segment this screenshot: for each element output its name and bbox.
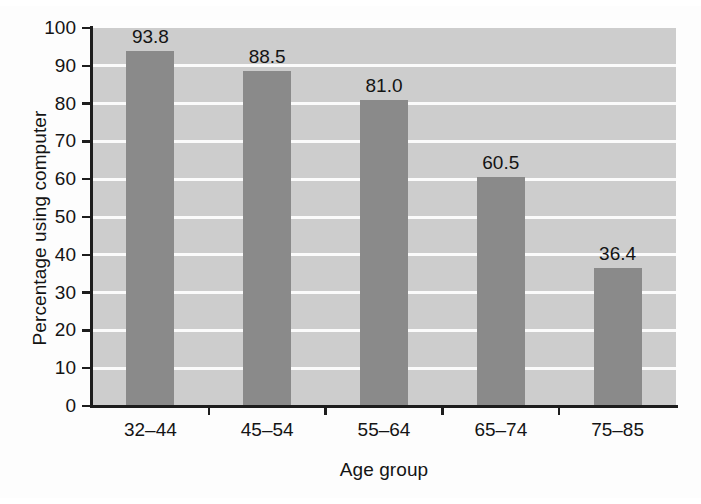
x-axis-category-label: 55–64: [324, 419, 444, 441]
y-axis-tick-label-text: 90: [24, 56, 76, 75]
y-axis-tick-label-text: 50: [24, 207, 76, 226]
y-axis-tick-label-text: 80: [24, 94, 76, 113]
bar-value-label: 81.0: [324, 75, 444, 97]
paper-margin-top: [0, 0, 701, 6]
y-axis-tick: [82, 367, 92, 370]
bar: [594, 268, 642, 406]
y-axis-tick: [82, 65, 92, 68]
x-axis-line: [90, 405, 678, 408]
y-axis-tick-label: 100: [14, 18, 76, 37]
y-axis-tick: [82, 216, 92, 219]
x-axis-tick: [208, 405, 211, 415]
bar: [360, 100, 408, 406]
y-axis-tick-label-text: 60: [24, 169, 76, 188]
y-axis-tick-label: 30: [14, 283, 76, 302]
figure-canvas: Percentage using computer Age group 1009…: [0, 0, 701, 504]
gridline: [92, 64, 676, 67]
y-axis-tick-label: 90: [14, 56, 76, 75]
y-axis-tick-label: 20: [14, 320, 76, 339]
bar-value-label: 36.4: [558, 243, 678, 265]
y-axis-tick-label: 60: [14, 169, 76, 188]
bar: [243, 71, 291, 406]
bar: [477, 177, 525, 406]
y-axis-tick: [82, 102, 92, 105]
y-axis-tick-label-text: 10: [24, 358, 76, 377]
x-axis-tick: [324, 405, 327, 415]
y-axis-tick-label: 10: [14, 358, 76, 377]
paper-margin-bottom: [0, 498, 701, 504]
y-axis-tick: [82, 291, 92, 294]
y-axis-tick-label-text: 30: [24, 283, 76, 302]
x-axis-category-label: 75–85: [558, 419, 678, 441]
y-axis-tick-label-text: 70: [24, 131, 76, 150]
y-axis-tick: [82, 178, 92, 181]
y-axis-tick-label: 70: [14, 131, 76, 150]
x-axis-tick: [441, 405, 444, 415]
y-axis-tick-label: 50: [14, 207, 76, 226]
y-axis-tick-label-text: 100: [24, 18, 76, 37]
y-axis-tick-label: 40: [14, 245, 76, 264]
y-axis-tick: [82, 140, 92, 143]
x-axis-tick: [558, 405, 561, 415]
y-axis-tick-label-text: 40: [24, 245, 76, 264]
x-axis-category-label: 32–44: [90, 419, 210, 441]
y-axis-tick-label: 0: [14, 396, 76, 415]
x-axis-category-label: 45–54: [207, 419, 327, 441]
x-axis-category-label: 65–74: [441, 419, 561, 441]
y-axis-tick: [82, 405, 92, 408]
y-axis-tick: [82, 254, 92, 257]
y-axis-tick-label-text: 0: [24, 396, 76, 415]
bar-value-label: 93.8: [90, 26, 210, 48]
x-axis-title: Age group: [92, 459, 676, 481]
y-axis-tick-label: 80: [14, 94, 76, 113]
bar: [126, 51, 174, 406]
bar-value-label: 88.5: [207, 46, 327, 68]
bar-value-label: 60.5: [441, 152, 561, 174]
y-axis-tick: [82, 329, 92, 332]
y-axis-tick-label-text: 20: [24, 320, 76, 339]
